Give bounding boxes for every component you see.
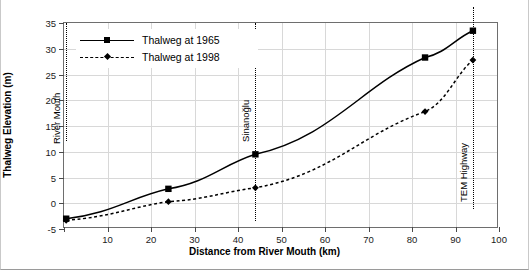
legend: Thalweg at 1965 Thalweg at 1998 (76, 29, 258, 68)
legend-swatch-solid-square (78, 34, 136, 46)
x-tick-label: 20 (146, 234, 157, 245)
data-point-square (422, 54, 428, 60)
data-point-square (252, 151, 258, 157)
data-point-diamond (422, 108, 429, 115)
annotation-label: River Mouth (51, 93, 62, 144)
y-tick-label: 35 (45, 18, 56, 29)
data-point-square (165, 186, 171, 192)
x-tick-label: 40 (233, 234, 244, 245)
x-tick-mark (499, 227, 500, 232)
y-tick-label: 0 (51, 198, 56, 209)
legend-label-1998: Thalweg at 1998 (142, 51, 220, 63)
chart-figure: Thalweg Elevation (m) Distance from Rive… (0, 0, 529, 270)
x-tick-label: 70 (363, 234, 374, 245)
legend-item-1998: Thalweg at 1998 (78, 48, 256, 65)
data-point-diamond (165, 198, 172, 205)
y-axis-title: Thalweg Elevation (m) (2, 72, 13, 178)
legend-swatch-dashed-diamond (78, 51, 136, 63)
x-tick-label: 90 (450, 234, 461, 245)
data-point-diamond (470, 57, 477, 64)
x-axis-title: Distance from River Mouth (km) (1, 246, 528, 257)
y-tick-label: 5 (51, 172, 56, 183)
x-tick-label: 10 (102, 234, 113, 245)
data-point-diamond (252, 184, 259, 191)
plot-area: -505101520253035 102030405060708090100 R… (63, 22, 498, 228)
x-tick-label: 50 (276, 234, 287, 245)
x-tick-label: 80 (407, 234, 418, 245)
y-tick-label: 25 (45, 69, 56, 80)
y-tick-label: 30 (45, 43, 56, 54)
x-tick-label: 100 (491, 234, 507, 245)
x-tick-label: 30 (189, 234, 200, 245)
legend-item-1965: Thalweg at 1965 (78, 31, 256, 48)
y-tick-label: 10 (45, 146, 56, 157)
series-line (66, 60, 473, 220)
data-point-square (470, 28, 476, 34)
y-tick-label: -5 (48, 224, 56, 235)
legend-label-1965: Thalweg at 1965 (142, 34, 220, 46)
x-tick-label: 60 (320, 234, 331, 245)
